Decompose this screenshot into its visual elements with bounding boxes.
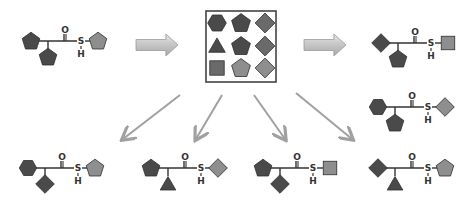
pentagon-icon xyxy=(39,48,57,65)
product-bottom-1: OSH xyxy=(19,152,104,193)
diamond-icon xyxy=(271,175,290,194)
hexagon-icon xyxy=(369,100,386,115)
hydrogen-label: H xyxy=(427,51,435,61)
hexagon-icon xyxy=(19,161,36,176)
oxygen-label: O xyxy=(293,152,301,162)
pentagon-icon xyxy=(89,32,107,49)
sulfur-label: S xyxy=(428,38,434,48)
pentagon-icon xyxy=(436,159,454,176)
product-right-1: OSH xyxy=(372,27,455,67)
sulfur-label: S xyxy=(310,163,316,173)
hydrogen-label: H xyxy=(309,176,317,186)
sulfur-label: S xyxy=(78,36,84,46)
diversification-arrow-3 xyxy=(254,95,285,139)
product-bottom-4: OSH xyxy=(369,152,454,190)
sulfur-label: S xyxy=(198,163,204,173)
sulfur-label: S xyxy=(425,102,431,112)
diversification-arrow-2 xyxy=(196,95,222,139)
product-bottom-2: OSH xyxy=(142,152,227,190)
square-icon xyxy=(210,61,224,75)
oxygen-label: O xyxy=(58,152,66,162)
start-molecule: OSH xyxy=(22,25,107,65)
pentagon-icon xyxy=(22,32,40,49)
pentagon-icon xyxy=(386,114,404,131)
diamond-icon xyxy=(372,34,391,53)
diamond-icon xyxy=(209,159,228,178)
hydrogen-label: H xyxy=(424,176,432,186)
diversification-arrow-1 xyxy=(123,95,180,139)
reaction-arrow-right xyxy=(136,34,178,56)
oxygen-label: O xyxy=(408,152,416,162)
diamond-icon xyxy=(436,98,455,117)
product-right-2: OSH xyxy=(369,91,454,131)
hydrogen-label: H xyxy=(197,176,205,186)
triangle-icon xyxy=(160,177,176,191)
reaction-arrow-right-2 xyxy=(304,34,346,56)
hydrogen-label: H xyxy=(424,115,432,125)
oxygen-label: O xyxy=(61,25,69,35)
oxygen-label: O xyxy=(408,91,416,101)
pentagon-icon xyxy=(86,159,104,176)
square-icon xyxy=(323,161,337,175)
diamond-icon xyxy=(369,159,388,178)
square-icon xyxy=(441,36,455,50)
diamond-icon xyxy=(36,175,55,194)
product-bottom-3: OSH xyxy=(254,152,337,193)
pentagon-icon xyxy=(389,50,407,67)
oxygen-label: O xyxy=(181,152,189,162)
hydrogen-label: H xyxy=(74,176,82,186)
diversification-arrow-4 xyxy=(296,93,352,139)
oxygen-label: O xyxy=(411,27,419,37)
pentagon-icon xyxy=(254,159,272,176)
triangle-icon xyxy=(387,177,403,191)
pentagon-icon xyxy=(142,159,160,176)
hydrogen-label: H xyxy=(77,49,85,59)
combinatorial-diagram: OSHOSHOSHOSHOSHOSHOSH xyxy=(0,0,473,204)
sulfur-label: S xyxy=(425,163,431,173)
sulfur-label: S xyxy=(75,163,81,173)
